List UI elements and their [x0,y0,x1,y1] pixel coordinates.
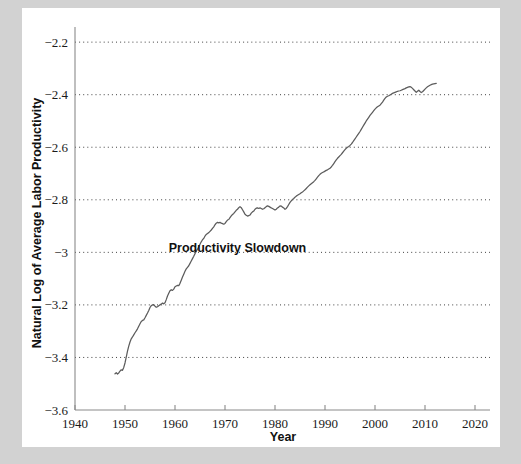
x-tick-label: 2010 [412,416,438,431]
x-tick-label: 2020 [462,416,488,431]
x-tick-label: 1980 [262,416,288,431]
y-tick-label: −3.2 [44,297,68,312]
x-tick-label: 1960 [162,416,188,431]
x-tick-label: 1940 [62,416,88,431]
x-axis-title: Year [270,430,297,444]
x-tick-label: 1990 [312,416,338,431]
figure-root: −2.2−2.4−2.6−2.8−3−3.2−3.4−3.6 194019501… [0,0,521,464]
y-tick-label: −2.2 [44,35,68,50]
y-tick-label: −3.4 [44,350,68,365]
annotations-group: Productivity Slowdown [169,241,307,255]
y-tick-labels-group: −2.2−2.4−2.6−2.8−3−3.2−3.4−3.6 [44,35,68,418]
y-tick-label: −2.6 [44,140,68,155]
x-tick-label: 1950 [112,416,138,431]
x-tick-label: 2000 [362,416,388,431]
series-line [115,83,436,374]
x-tick-label: 1970 [212,416,238,431]
x-tick-labels-group: 194019501960197019801990200020102020 [62,416,488,431]
productivity-line-chart: −2.2−2.4−2.6−2.8−3−3.2−3.4−3.6 194019501… [0,0,521,464]
annotation-productivity-slowdown: Productivity Slowdown [169,241,307,255]
x-tickmarks-group [75,405,475,410]
y-tick-label: −3 [54,245,68,260]
y-tick-label: −2.8 [44,192,68,207]
data-series-group [115,83,436,374]
y-axis-title: Natural Log of Average Labor Productivit… [30,98,44,349]
y-tick-label: −2.4 [44,87,68,102]
axis-spines-group [75,27,490,410]
gridlines-group [75,42,490,357]
